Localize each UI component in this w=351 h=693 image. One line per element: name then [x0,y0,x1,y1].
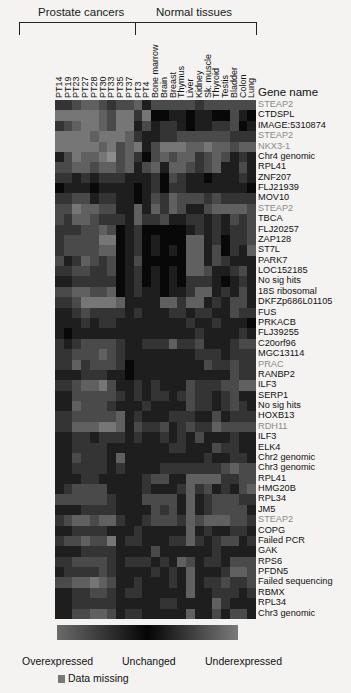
heatmap-cell [247,557,256,568]
heatmap-cell [247,484,256,495]
data-missing-swatch [58,675,65,683]
heatmap-cell [247,546,256,557]
gene-label: MOV10 [258,193,289,203]
heatmap-cell [247,162,256,173]
heatmap-cell [247,287,256,298]
column-labels: PT14PT19PT23PT27PT28PT30PT33PT35PT37PT3P… [55,36,256,98]
gene-label: FLJ39255 [258,328,299,338]
gene-label: TBCA [258,214,283,224]
gene-label: SERP1 [258,391,288,401]
heatmap-cell [247,204,256,215]
heatmap-cell [247,245,256,256]
heatmap-cell [247,297,256,308]
gene-label: PARK7 [258,256,287,266]
gene-label: STEAP2 [258,100,293,110]
gene-label: FLJ21939 [258,183,299,193]
gene-label: ELK4 [258,443,280,453]
heatmap-cell [247,370,256,381]
gene-label: STEAP2 [258,204,293,214]
gene-label: HOXB13 [258,411,294,421]
heatmap-cell [247,391,256,402]
bracket-normal [135,22,257,35]
heatmap-cell [247,380,256,391]
gene-label: PRAC [258,360,284,370]
heatmap-cell [247,183,256,194]
gene-label: FUS [258,308,276,318]
heatmap-cell [247,401,256,412]
heatmap-cell [247,225,256,236]
gene-name-header: Gene name [258,86,318,98]
heatmap-cell [247,577,256,588]
heatmap-cell [247,266,256,277]
gene-label: Failed PCR [258,536,305,546]
heatmap-cell [247,422,256,433]
heatmap-grid [55,100,256,619]
group-label-normal: Normal tissues [156,6,232,18]
heatmap-cell [247,256,256,267]
gene-label: C20orf96 [258,339,296,349]
heatmap-cell [247,349,256,360]
heatmap-cell [247,214,256,225]
gene-label: FLJ20257 [258,225,299,235]
gene-label: RPL41 [258,474,286,484]
heatmap-cell [247,443,256,454]
heatmap-cell [247,494,256,505]
heatmap-cell [247,193,256,204]
gene-label: RPL41 [258,162,286,172]
gene-label: PRKACB [258,318,296,328]
gene-label: LOC152185 [258,266,308,276]
gene-label: CTDSPL [258,110,294,120]
gene-label: ILF3 [258,380,276,390]
gene-label: PFDN5 [258,567,288,577]
gene-label: Chr4 genomic [258,152,315,162]
heatmap-cell [247,131,256,142]
gene-label: RANBP2 [258,370,295,380]
gene-label: Chr3 genomic [258,609,315,619]
gene-label: GAK [258,546,277,556]
gene-label: No sig hits [258,401,301,411]
group-label-prostate: Prostate cancers [38,6,124,18]
heatmap-cell [247,463,256,474]
column-label: Lung [247,36,256,98]
heatmap-cell [247,276,256,287]
gene-label: ZAP128 [258,235,291,245]
heatmap-cell [247,432,256,443]
gene-label: RBMX [258,588,285,598]
data-missing-label: Data missing [68,672,129,684]
gene-label: JM5 [258,505,275,515]
heatmap-cell [247,411,256,422]
heatmap-cell [247,536,256,547]
heatmap-cell [247,453,256,464]
gene-label: STEAP2 [258,131,293,141]
gene-label: STEAP2 [258,515,293,525]
heatmap-cell [247,598,256,609]
heatmap-cell [247,339,256,350]
heatmap-cell [247,308,256,319]
gene-label: ST7L [258,245,280,255]
gene-label: IMAGE:5310874 [258,121,326,131]
scale-label-underexpressed: Underexpressed [205,655,282,667]
gene-label: COPG [258,526,285,536]
column-label-text: Lung [247,78,256,98]
heatmap-cell [247,474,256,485]
gene-label: DKFZp686L01105 [258,297,332,307]
heatmap-cell [247,588,256,599]
heatmap-cell [247,100,256,111]
gene-label: Failed sequencing [258,577,333,587]
gene-label: RPS6 [258,557,282,567]
gene-label: RPL34 [258,494,286,504]
gene-label: NKX3-1 [258,142,290,152]
heatmap-cell [247,152,256,163]
heatmap-cell [247,173,256,184]
gene-label: ZNF207 [258,173,291,183]
heatmap-cell [247,526,256,537]
gene-label: HMG20B [258,484,296,494]
gene-label: RPL34 [258,598,286,608]
heatmap-cell [247,567,256,578]
gene-label: ILF3 [258,432,276,442]
scale-label-overexpressed: Overexpressed [22,655,93,667]
heatmap-cell [247,328,256,339]
heatmap-cell [247,121,256,132]
gene-label: 18S ribosomal [258,287,317,297]
color-scale-bar [57,625,238,640]
